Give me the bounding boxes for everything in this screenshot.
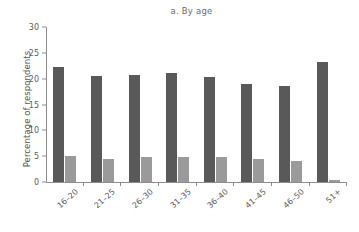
x-axis-tick-mark: [271, 182, 272, 186]
x-axis-tick-mark: [120, 182, 121, 186]
y-axis-tick-label: 20: [29, 74, 39, 83]
y-axis-tick: 0: [34, 178, 46, 187]
y-axis-tick-label: 5: [34, 152, 39, 161]
y-axis-tick-label: 0: [34, 178, 39, 187]
y-axis-tick-mark: [42, 130, 46, 131]
bar-series-2[interactable]: [103, 159, 114, 182]
bar-group[interactable]: [166, 73, 189, 182]
y-axis-tick: 10: [29, 126, 46, 135]
bar-group[interactable]: [129, 75, 152, 182]
y-axis-tick-mark: [42, 52, 46, 53]
bar-series-1[interactable]: [279, 86, 290, 182]
bar-series-2[interactable]: [329, 180, 340, 182]
bar-series-1[interactable]: [204, 77, 215, 182]
bar-series-1[interactable]: [53, 67, 64, 182]
y-axis-tick-label: 30: [29, 23, 39, 32]
x-axis-tick-mark: [158, 182, 159, 186]
y-axis-tick: 15: [29, 100, 46, 109]
x-axis-tick-mark: [233, 182, 234, 186]
x-axis-tick-label: 26–30: [131, 187, 155, 210]
y-axis-tick: 5: [34, 152, 46, 161]
y-axis-tick: 20: [29, 74, 46, 83]
bar-series-1[interactable]: [166, 73, 177, 182]
x-axis-tick-label: 41–45: [243, 187, 267, 210]
y-axis-tick-label: 10: [29, 126, 39, 135]
x-axis-tick-label: 31–35: [168, 187, 192, 210]
x-axis-tick-mark: [309, 182, 310, 186]
x-axis-tick-mark: [83, 182, 84, 186]
bar-group[interactable]: [91, 76, 114, 182]
y-axis-tick-mark: [42, 104, 46, 105]
y-axis-tick: 30: [29, 23, 46, 32]
bar-group[interactable]: [241, 84, 264, 182]
x-axis-tick-label: 36–40: [206, 187, 230, 210]
bar-series-2[interactable]: [141, 157, 152, 182]
x-axis-tick-label: 21–25: [93, 187, 117, 210]
bar-series-1[interactable]: [129, 75, 140, 182]
x-axis-tick-label: 46–50: [281, 187, 305, 210]
bar-chart: a. By age Percentage of respondents 0510…: [0, 0, 359, 232]
bar-group[interactable]: [204, 77, 227, 182]
bar-series-2[interactable]: [65, 156, 76, 182]
bar-group[interactable]: [317, 62, 340, 182]
chart-title: a. By age: [0, 6, 359, 16]
plot-area: 051015202530: [46, 27, 347, 182]
bar-series-1[interactable]: [317, 62, 328, 182]
y-axis-tick-mark: [42, 156, 46, 157]
bar-series-1[interactable]: [91, 76, 102, 182]
y-axis-tick-label: 25: [29, 48, 39, 57]
bar-series-2[interactable]: [291, 161, 302, 182]
x-axis-tick-label: 16–20: [55, 187, 79, 210]
bar-series-2[interactable]: [253, 159, 264, 182]
x-axis-tick-label: 51+: [324, 187, 343, 205]
bar-group[interactable]: [279, 86, 302, 182]
bar-series-1[interactable]: [241, 84, 252, 182]
x-axis-tick-mark: [196, 182, 197, 186]
y-axis-tick-mark: [42, 27, 46, 28]
y-axis-tick: 25: [29, 48, 46, 57]
bar-series-2[interactable]: [178, 157, 189, 182]
bar-group[interactable]: [53, 67, 76, 182]
bar-series-2[interactable]: [216, 157, 227, 182]
y-axis-tick-label: 15: [29, 100, 39, 109]
x-axis-tick-mark: [346, 182, 347, 186]
y-axis-tick-mark: [42, 78, 46, 79]
y-axis-tick-mark: [42, 182, 46, 183]
